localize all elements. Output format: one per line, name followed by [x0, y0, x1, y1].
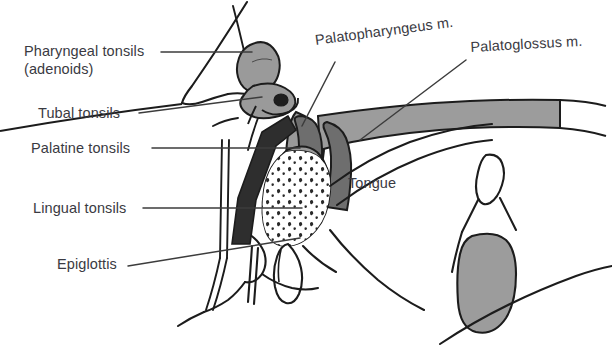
label-palatine-tonsils: Palatine tonsils [31, 139, 130, 157]
label-tongue: Tongue [348, 174, 396, 192]
label-lingual-tonsils: Lingual tonsils [33, 199, 126, 217]
label-pharyngeal-tonsils: Pharyngeal tonsils(adenoids) [24, 42, 144, 78]
label-pharyngeal-tonsils-line2: (adenoids) [24, 61, 94, 77]
label-pharyngeal-tonsils-line1: Pharyngeal tonsils [24, 43, 144, 59]
label-tubal-tonsils: Tubal tonsils [38, 104, 120, 122]
larynx-trachea [457, 234, 516, 333]
label-epiglottis: Epiglottis [57, 255, 117, 273]
